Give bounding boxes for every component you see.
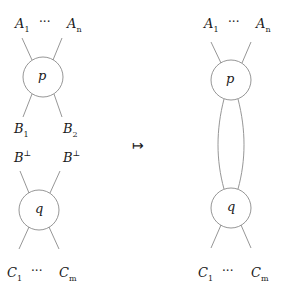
- right-cut-link-right: [238, 99, 244, 189]
- right-q-edge-cm: [241, 225, 251, 248]
- left-q-edge-cm: [49, 227, 59, 249]
- right-node-p-label: p: [226, 72, 234, 85]
- left-p-edge-a1: [22, 38, 32, 60]
- right-node-q-label: q: [227, 200, 235, 213]
- right-p-edge-an: [242, 42, 251, 63]
- left-top-ellipsis: ···: [39, 16, 50, 28]
- left-node-p-label: p: [38, 69, 46, 82]
- right-p-edge-a1: [211, 42, 221, 63]
- left-label-cm: Cm: [59, 266, 77, 283]
- left-label-c1: C1: [7, 266, 22, 283]
- left-p-edge-b1: [23, 94, 32, 117]
- maps-to-arrow: ↦: [132, 138, 144, 152]
- right-label-a1: A1: [204, 17, 218, 34]
- right-label-cm: Cm: [251, 266, 269, 283]
- right-q-edge-c1: [211, 225, 221, 248]
- left-node-q-label: q: [35, 202, 43, 215]
- left-q-edge-b2: [50, 171, 60, 193]
- right-cut-link-left: [218, 99, 224, 189]
- left-bottom-ellipsis: ···: [31, 265, 42, 277]
- left-p-edge-an: [53, 38, 62, 60]
- left-q-edge-b1: [20, 171, 29, 193]
- left-label-a1: A1: [15, 17, 29, 34]
- left-label-b2: B2: [63, 122, 78, 139]
- left-p-edge-b2: [54, 94, 62, 117]
- right-bottom-ellipsis: ···: [222, 265, 233, 277]
- left-label-b2-dual: B⊥: [63, 151, 80, 164]
- diagram-canvas: A1 ··· An p B1 B2 B⊥ B⊥ q C1 ··· Cm ↦ A1…: [0, 0, 287, 295]
- right-label-an: An: [256, 17, 271, 34]
- left-label-b1: B1: [14, 122, 29, 139]
- left-label-b1-dual: B⊥: [14, 151, 31, 164]
- left-label-an: An: [67, 17, 82, 34]
- left-q-edge-c1: [19, 227, 29, 249]
- right-top-ellipsis: ···: [228, 16, 239, 28]
- right-label-c1: C1: [198, 266, 213, 283]
